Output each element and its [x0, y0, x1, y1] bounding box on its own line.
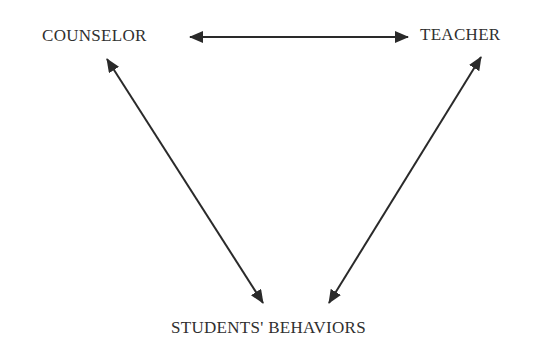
arrow-teacher-students	[329, 57, 481, 303]
node-counselor: COUNSELOR	[42, 26, 147, 46]
arrow-counselor-students	[107, 59, 263, 303]
relationship-arrows	[0, 0, 538, 358]
node-teacher: TEACHER	[420, 25, 500, 45]
node-students-behaviors: STUDENTS' BEHAVIORS	[171, 318, 366, 338]
